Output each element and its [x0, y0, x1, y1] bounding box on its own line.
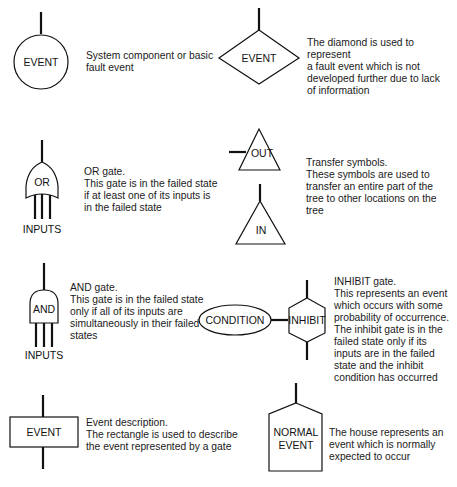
- basic-event-description: System component or basic fault event: [86, 50, 213, 74]
- transfer-out-label: OUT: [251, 147, 274, 159]
- basic-event-label: EVENT: [23, 56, 59, 68]
- and-gate-description: AND gate. This gate is in the failed sta…: [70, 282, 203, 342]
- house-label-line1: NORMAL: [274, 426, 319, 438]
- inhibit-gate-label: INHIBIT: [288, 314, 326, 326]
- inhibit-gate-symbol: CONDITION INHIBIT: [199, 280, 326, 360]
- transfer-out-symbol: OUT: [229, 129, 280, 170]
- transfer-in-symbol: IN: [236, 184, 285, 244]
- diamond-description: The diamond is used to represent a fault…: [307, 37, 457, 97]
- undeveloped-event-diamond: EVENT: [219, 8, 299, 84]
- or-gate-description: OR gate. This gate is in the failed stat…: [84, 166, 217, 214]
- inhibit-gate-description: INHIBIT gate. This represents an event w…: [334, 276, 449, 384]
- event-description-text: Event description. The rectangle is used…: [86, 417, 238, 453]
- and-gate-symbol: AND INPUTS: [25, 263, 64, 361]
- condition-label: CONDITION: [206, 314, 265, 326]
- and-inputs-label: INPUTS: [25, 349, 64, 361]
- diamond-event-label: EVENT: [241, 52, 277, 64]
- basic-event-symbol: EVENT: [14, 12, 68, 89]
- house-event-description: The house represents an event which is n…: [329, 427, 443, 463]
- transfer-description: Transfer symbols. These symbols are used…: [306, 157, 437, 217]
- rectangle-event-label: EVENT: [26, 426, 62, 438]
- and-gate-label: AND: [33, 303, 56, 315]
- or-gate-symbol: OR INPUTS: [23, 140, 62, 235]
- house-event-symbol: NORMAL EVENT: [269, 383, 322, 471]
- or-inputs-label: INPUTS: [23, 223, 62, 235]
- or-gate-label: OR: [34, 176, 50, 188]
- transfer-in-label: IN: [256, 224, 267, 236]
- event-description-rectangle: EVENT: [10, 395, 78, 469]
- house-label-line2: EVENT: [278, 439, 314, 451]
